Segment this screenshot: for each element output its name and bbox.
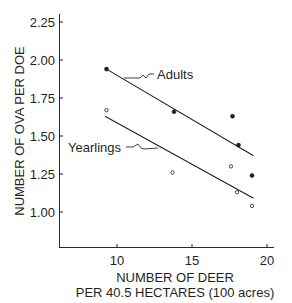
fit-lines: [105, 69, 254, 198]
x-tick-label: 15: [185, 253, 199, 268]
adults-fit-line: [107, 69, 254, 156]
y-tick-label: 1.75: [30, 91, 55, 106]
yearlings-data-point: [235, 191, 238, 194]
yearlings-data-point: [229, 165, 232, 168]
axes: [59, 14, 274, 248]
y-axis-title: NUMBER OF OVA PER DOE: [12, 46, 27, 216]
adults-annotation: Adults: [124, 67, 194, 82]
x-axis-title-line1: NUMBER OF DEER: [116, 270, 234, 285]
y-tick-label: 2.25: [30, 15, 55, 30]
x-tick-label: 20: [260, 253, 274, 268]
adults-data-point: [237, 143, 241, 147]
yearlings-data-point: [105, 108, 108, 111]
yearlings-fit-line: [105, 116, 254, 198]
yearlings-label: Yearlings: [68, 140, 122, 155]
yearlings-leader-line: [126, 144, 158, 149]
yearlings-annotation: Yearlings: [68, 140, 158, 155]
adults-data-point: [105, 67, 109, 71]
adults-data-point: [231, 114, 235, 118]
y-ticks: 1.001.251.501.752.002.25: [30, 15, 63, 220]
yearlings-data-point: [171, 171, 174, 174]
adults-data-point: [172, 110, 176, 114]
adults-label: Adults: [157, 67, 194, 82]
y-tick-label: 2.00: [30, 53, 55, 68]
y-tick-label: 1.00: [30, 205, 55, 220]
yearlings-data-point: [250, 204, 253, 207]
x-axis-title-line2: PER 40.5 HECTARES (100 acres): [76, 285, 274, 300]
x-tick-label: 10: [110, 253, 124, 268]
adults-leader-line: [124, 74, 154, 78]
y-tick-label: 1.50: [30, 129, 55, 144]
adults-data-point: [250, 174, 254, 178]
y-tick-label: 1.25: [30, 167, 55, 182]
scatter-chart: 1.001.251.501.752.002.25 101520 NUMBER O…: [0, 0, 292, 303]
